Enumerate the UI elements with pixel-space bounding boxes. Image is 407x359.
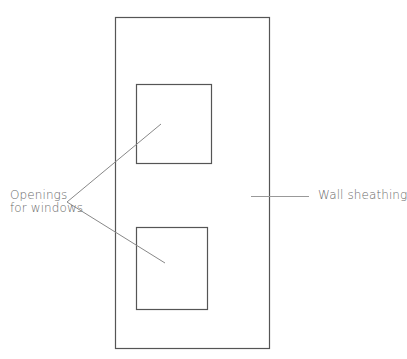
wall-sheathing-label: Wall sheathing: [318, 189, 407, 202]
openings-label-line2: for windows: [10, 202, 83, 215]
openings-label: Openings for windows: [10, 189, 83, 215]
window-opening-lower: [137, 228, 208, 310]
window-opening-upper: [137, 85, 212, 164]
wall-panel: [116, 18, 270, 349]
